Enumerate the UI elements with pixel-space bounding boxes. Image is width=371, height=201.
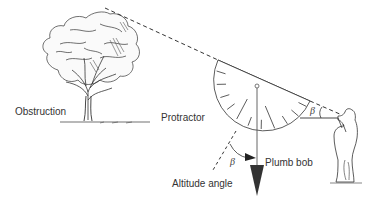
protractor-label: Protractor: [161, 113, 205, 123]
obstruction-label: Obstruction: [15, 107, 66, 117]
altitude-angle-label: Altitude angle: [172, 179, 233, 189]
protractor: [214, 60, 310, 131]
beta-observer-label: β: [310, 106, 315, 116]
diagram-canvas: [0, 0, 371, 201]
beta-plumb-label: β: [230, 157, 235, 167]
observer-figure: [330, 109, 362, 183]
arrowhead-icon: [245, 153, 256, 161]
plumb-bob-label: Plumb bob: [265, 158, 313, 168]
plumb-bob: [250, 165, 264, 196]
beta-arc-observer: [320, 107, 322, 118]
